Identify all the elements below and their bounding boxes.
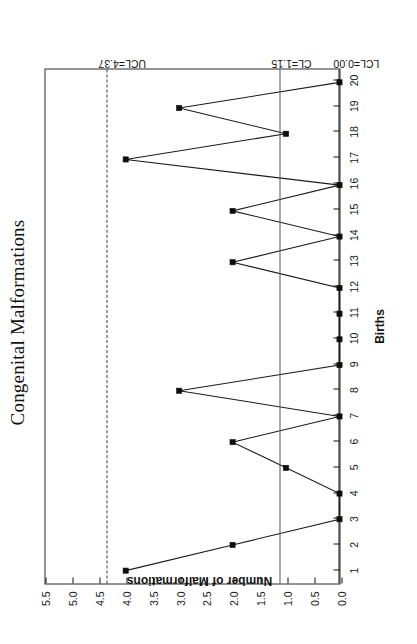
x-axis-tick [333, 131, 339, 132]
x-axis-tick [333, 492, 339, 493]
y-axis-tick-label: 2.0 [227, 591, 239, 606]
data-point-marker [123, 156, 128, 161]
x-axis-tick-label: 16 [347, 177, 359, 189]
x-axis-title: Births [372, 68, 386, 584]
data-series [45, 69, 339, 583]
x-axis-tick-label: 10 [347, 332, 359, 344]
y-axis-tick-label: 0.0 [335, 591, 347, 606]
x-axis-tick [333, 466, 339, 467]
x-axis-tick [333, 518, 339, 519]
x-axis-tick-label: 3 [347, 516, 359, 522]
x-axis-tick-label: 2 [347, 541, 359, 547]
y-axis-tick-label: 4.5 [93, 591, 105, 606]
y-axis-title: Number of Malformations [51, 573, 347, 587]
x-axis-tick-label: 11 [347, 307, 359, 318]
data-point-marker [283, 465, 288, 470]
x-axis-tick-label: 4 [347, 490, 359, 496]
chart-title: Congenital Malformations [6, 0, 28, 644]
y-axis-tick-label: 3.0 [174, 591, 186, 606]
x-axis-tick [333, 105, 339, 106]
data-point-marker [283, 131, 288, 136]
data-point-marker [230, 208, 235, 213]
data-point-marker [123, 568, 128, 573]
control-limit-label-lcl: LCL=0.00 [333, 57, 379, 69]
x-axis-tick [333, 208, 339, 209]
data-point-marker [176, 105, 181, 110]
x-axis-tick [333, 311, 339, 312]
x-axis-tick [333, 569, 339, 570]
x-axis-tick-label: 13 [347, 255, 359, 267]
x-axis-tick [333, 182, 339, 183]
data-point-marker [230, 259, 235, 264]
x-axis-tick-label: 18 [347, 126, 359, 138]
x-axis-tick [333, 543, 339, 544]
series-line [125, 82, 339, 570]
control-limit-line-cl [279, 69, 280, 583]
x-axis-tick [333, 363, 339, 364]
x-axis-tick [333, 285, 339, 286]
x-axis-tick [333, 260, 339, 261]
y-axis-tick-label: 1.5 [254, 591, 266, 606]
x-axis-tick-label: 5 [347, 464, 359, 470]
control-limit-line-ucl [106, 69, 107, 583]
x-axis-tick [333, 414, 339, 415]
chart-figure: Congenital Malformations 0.00.51.01.52.0… [0, 0, 417, 644]
scan-artifact [352, 78, 353, 84]
data-point-marker [230, 439, 235, 444]
y-axis-tick-label: 5.5 [39, 591, 51, 606]
x-axis-tick-label: 8 [347, 387, 359, 393]
x-axis-tick-label: 6 [347, 438, 359, 444]
data-point-marker [176, 388, 181, 393]
x-axis-tick-label: 1 [347, 567, 359, 573]
y-axis-tick-label: 5.0 [66, 591, 78, 606]
x-axis-tick-label: 9 [347, 361, 359, 367]
x-axis-tick-label: 14 [347, 229, 359, 241]
x-axis-tick [333, 234, 339, 235]
x-axis-tick-label: 7 [347, 412, 359, 418]
control-limit-label-ucl: UCL=4.37 [98, 57, 146, 69]
plot-inner: 0.00.51.01.52.02.53.03.54.04.55.05.51234… [45, 69, 339, 583]
y-axis-tick-label: 3.5 [147, 591, 159, 606]
x-axis-tick-label: 17 [347, 151, 359, 163]
x-axis-tick [333, 337, 339, 338]
y-axis-tick-label: 0.5 [308, 591, 320, 606]
control-limit-label-cl: CL=1.15 [271, 57, 311, 69]
y-axis-tick-label: 2.5 [200, 591, 212, 606]
rotated-chart-canvas: Congenital Malformations 0.00.51.01.52.0… [0, 0, 417, 644]
data-point-marker [230, 542, 235, 547]
x-axis-tick [333, 389, 339, 390]
y-axis-tick [45, 577, 46, 583]
x-axis-tick [333, 440, 339, 441]
y-axis-tick-label: 1.0 [281, 591, 293, 606]
x-axis-tick-label: 12 [347, 280, 359, 292]
x-axis-tick [333, 156, 339, 157]
x-axis-tick-label: 15 [347, 203, 359, 215]
x-axis-tick [333, 79, 339, 80]
y-axis-tick-label: 4.0 [120, 591, 132, 606]
plot-area: 0.00.51.01.52.02.53.03.54.04.55.05.51234… [44, 68, 340, 584]
x-axis-tick-label: 19 [347, 100, 359, 112]
